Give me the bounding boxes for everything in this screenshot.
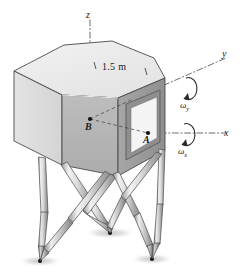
dimension-label-1-5m: 1.5 m (102, 62, 126, 72)
hexapod-figure (0, 0, 243, 277)
x-axis-label: x (224, 128, 228, 138)
omega-y-subscript: y (186, 105, 189, 112)
leg-6-lower (154, 204, 163, 244)
y-axis-label: y (222, 49, 226, 59)
leg-6 (152, 149, 165, 259)
leg-3-lower (44, 219, 73, 252)
omega-x-subscript: x (184, 151, 187, 158)
omega-y-label: ωy (180, 101, 189, 112)
platform-body (14, 41, 165, 176)
rotation-arrow-omega-y (184, 78, 197, 100)
body-front-face (62, 95, 118, 176)
omega-y-arrowhead (184, 93, 190, 100)
leg-1-lower (39, 212, 49, 247)
z-axis-label: z (86, 10, 90, 20)
omega-x-arrowhead (182, 139, 188, 146)
point-a-label: A (143, 135, 150, 145)
point-b-label: B (85, 122, 92, 132)
rotation-arrow-omega-x (182, 124, 195, 146)
leg-7-lower (107, 197, 126, 229)
leg-5-lower (134, 213, 153, 247)
omega-x-label: ωx (178, 147, 187, 158)
leg-1-upper (39, 157, 49, 213)
